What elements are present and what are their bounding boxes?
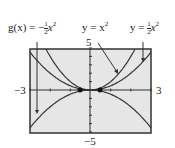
- ymin-label: −5: [84, 136, 96, 147]
- xmin-label: −3: [14, 85, 26, 96]
- point-left: [78, 88, 83, 93]
- label-g: g(x) = −12x2: [8, 21, 56, 36]
- label-half: y = 12x2: [130, 21, 159, 36]
- xmax-label: 3: [156, 85, 162, 96]
- ymax-label: 5: [86, 37, 92, 48]
- point-right: [98, 88, 103, 93]
- label-x2: y = x2: [82, 21, 108, 33]
